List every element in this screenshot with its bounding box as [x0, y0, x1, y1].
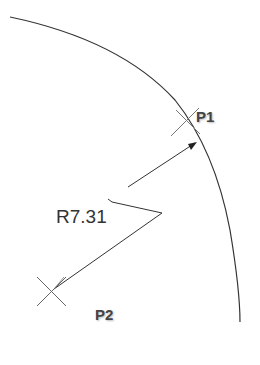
- p2-cross-icon: [37, 277, 66, 306]
- arrowhead-icon: [188, 142, 197, 150]
- radius-dimension-text: R7.31: [56, 206, 107, 228]
- arc: [10, 17, 240, 322]
- dimension-leader-upper: [128, 143, 195, 187]
- drawing-canvas: [0, 0, 260, 365]
- point-label-p2: P2: [95, 306, 113, 323]
- point-label-p1: P1: [196, 108, 214, 125]
